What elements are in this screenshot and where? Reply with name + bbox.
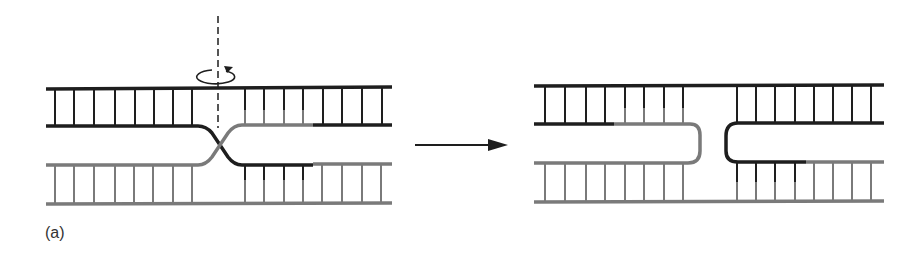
circular-arrow-icon	[197, 66, 235, 84]
strand-exchange-diagram	[0, 0, 921, 254]
right-right-hairpin-dark	[726, 123, 884, 162]
left-bottom-duplex-lower-strand	[46, 203, 392, 204]
right-left-hairpin-light	[534, 124, 700, 163]
right-bottom-rungs-left	[545, 163, 683, 202]
left-dark-crossing-strand	[46, 126, 313, 165]
left-bottom-rungs-left	[55, 165, 192, 204]
right-top-rungs-right	[737, 85, 871, 123]
right-panel	[534, 85, 884, 202]
left-top-duplex-upper-strand	[46, 87, 392, 89]
panel-label: (a)	[45, 224, 65, 242]
left-light-crossing-strand	[46, 125, 313, 165]
left-panel	[46, 16, 392, 204]
right-bottom-rungs-right	[737, 162, 871, 201]
left-top-rungs-right	[245, 87, 382, 125]
right-top-duplex-upper-strand	[534, 85, 884, 86]
right-top-rungs-left	[545, 86, 683, 124]
left-top-rungs-left	[55, 89, 192, 126]
left-bottom-rungs-right	[245, 164, 381, 203]
right-arrow-icon	[415, 139, 508, 151]
